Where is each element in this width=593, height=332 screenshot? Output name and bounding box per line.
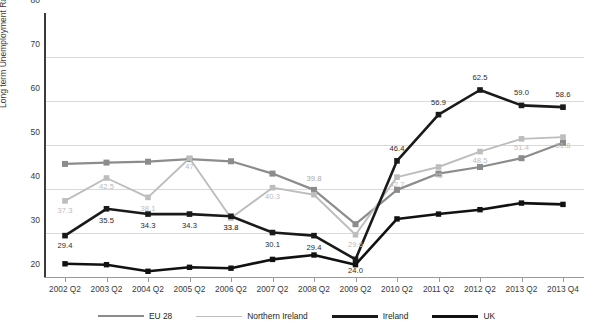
legend-label: Northern Ireland <box>247 311 308 321</box>
series-marker <box>187 265 192 270</box>
x-tick-label: 2007 Q2 <box>251 284 295 294</box>
y-tick-label: 30 <box>18 216 40 224</box>
series-marker <box>311 233 317 239</box>
series-marker <box>519 136 525 142</box>
x-tick-mark <box>356 277 357 282</box>
data-point-label: 58.6 <box>547 91 579 99</box>
series-line <box>65 137 563 235</box>
series-marker <box>394 158 400 164</box>
y-tick-label: 40 <box>18 172 40 180</box>
data-point-label: 34.3 <box>174 222 206 230</box>
y-tick-label: 20 <box>18 260 40 268</box>
x-tick-mark <box>522 277 523 282</box>
series-marker <box>104 262 109 267</box>
series-marker <box>187 155 193 161</box>
data-point-label: 29.4 <box>298 244 330 252</box>
y-tick-label: 60 <box>18 84 40 92</box>
legend-item[interactable]: UK <box>432 311 495 321</box>
x-tick-label: 2003 Q2 <box>85 284 129 294</box>
data-point-label: 51.4 <box>506 144 538 152</box>
x-tick-mark <box>397 277 398 282</box>
data-point-label: 47 <box>174 163 206 171</box>
series-marker <box>477 207 482 212</box>
long-term-unemployment-rate-chart: Long term Unemployment Rate 807060504030… <box>0 0 593 332</box>
data-point-label: 42.7 <box>381 181 413 189</box>
data-point-label: 29.6 <box>340 241 372 249</box>
x-tick-mark <box>65 277 66 282</box>
data-point-label: 56.9 <box>423 99 455 107</box>
series-marker <box>560 104 566 110</box>
series-marker <box>436 164 442 170</box>
x-tick-mark <box>148 277 149 282</box>
legend-label: UK <box>483 311 495 321</box>
legend-swatch <box>196 316 242 317</box>
series-marker <box>228 158 234 164</box>
data-point-label: 37.3 <box>49 207 81 215</box>
series-marker <box>104 206 110 212</box>
series-marker <box>311 252 316 257</box>
series-marker <box>62 261 67 266</box>
series-marker <box>477 149 483 155</box>
series-marker <box>394 216 399 221</box>
series-marker <box>145 195 151 201</box>
legend-item[interactable]: Ireland <box>332 311 409 321</box>
legend-label: Ireland <box>383 311 409 321</box>
series-marker <box>270 171 276 177</box>
data-point-label: 45 <box>423 172 455 180</box>
data-point-label: 62.5 <box>464 74 496 82</box>
y-axis-title: Long term Unemployment Rate <box>0 0 8 108</box>
data-point-label: 29.4 <box>49 242 81 250</box>
series-marker <box>270 185 276 191</box>
x-tick-label: 2011 Q2 <box>417 284 461 294</box>
series-marker <box>436 211 441 216</box>
data-point-label: 39.8 <box>298 175 330 183</box>
series-marker <box>394 174 400 180</box>
x-tick-label: 2012 Q2 <box>458 284 502 294</box>
y-axis-tick-labels: 80706050403020 <box>14 0 40 264</box>
data-point-label: 30.1 <box>257 241 289 249</box>
x-tick-label: 2009 Q2 <box>334 284 378 294</box>
x-tick-label: 2002 Q2 <box>43 284 87 294</box>
data-point-label: 42.5 <box>91 183 123 191</box>
x-tick-label: 2013 Q4 <box>541 284 585 294</box>
y-tick-label: 50 <box>18 128 40 136</box>
legend-swatch <box>432 315 478 318</box>
data-point-label: 48.5 <box>464 157 496 165</box>
series-marker <box>62 161 68 167</box>
x-tick-label: 2013 Q2 <box>500 284 544 294</box>
series-marker <box>560 202 565 207</box>
x-tick-mark <box>563 277 564 282</box>
chart-legend: EU 28Northern IrelandIrelandUK <box>0 305 593 327</box>
x-tick-label: 2005 Q2 <box>168 284 212 294</box>
data-point-label: 24.0 <box>340 267 372 275</box>
series-marker <box>519 103 525 109</box>
series-marker <box>519 200 524 205</box>
series-marker <box>311 192 317 198</box>
series-marker <box>353 232 359 238</box>
x-tick-mark <box>314 277 315 282</box>
x-tick-mark <box>231 277 232 282</box>
series-marker <box>560 134 566 140</box>
x-tick-label: 2010 Q2 <box>375 284 419 294</box>
legend-swatch <box>98 315 144 317</box>
series-marker <box>270 257 275 262</box>
data-point-label: 34.3 <box>132 222 164 230</box>
legend-item[interactable]: Northern Ireland <box>196 311 308 321</box>
series-marker <box>145 269 150 274</box>
series-marker <box>187 211 193 217</box>
data-point-label: 46.4 <box>381 145 413 153</box>
y-tick-label: 70 <box>18 40 40 48</box>
series-marker <box>62 198 68 204</box>
data-point-label: 40.3 <box>257 193 289 201</box>
x-tick-mark <box>439 277 440 282</box>
x-tick-mark <box>480 277 481 282</box>
series-marker <box>145 159 151 165</box>
series-marker <box>436 112 442 118</box>
data-point-label: 51.8 <box>547 142 579 150</box>
x-tick-label: 2004 Q2 <box>126 284 170 294</box>
legend-item[interactable]: EU 28 <box>98 311 172 321</box>
series-marker <box>519 155 525 161</box>
series-marker <box>62 233 68 239</box>
x-tick-mark <box>107 277 108 282</box>
series-marker <box>353 221 359 227</box>
